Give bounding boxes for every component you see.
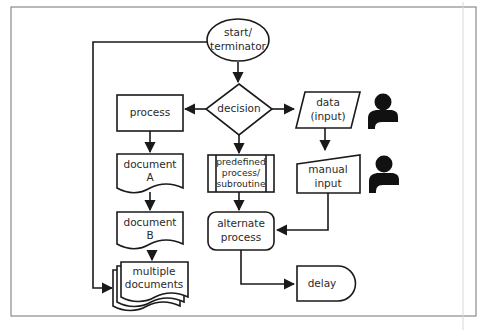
edge-manual-input-alternate bbox=[277, 193, 328, 230]
node-start-terminator: start/ terminator bbox=[207, 19, 269, 61]
node-multiple-documents: multiple documents bbox=[113, 262, 188, 311]
process-label: process bbox=[130, 106, 170, 118]
data-input-line1: data bbox=[316, 96, 340, 108]
alternate-process-line1: alternate bbox=[217, 217, 265, 229]
start-label-line2: terminator bbox=[210, 40, 266, 52]
document-b-line1: document bbox=[124, 216, 177, 228]
data-input-line2: (input) bbox=[310, 110, 345, 122]
node-document-b: document B bbox=[117, 212, 183, 249]
decision-label: decision bbox=[217, 102, 260, 114]
predefined-line2: process/ bbox=[222, 167, 261, 178]
node-alternate-process: alternate process bbox=[208, 212, 274, 250]
predefined-line3: subroutine bbox=[216, 178, 265, 189]
predefined-line1: predefined bbox=[216, 156, 266, 167]
node-process: process bbox=[117, 95, 183, 131]
edge-alternate-delay bbox=[241, 250, 294, 284]
node-delay: delay bbox=[297, 266, 356, 301]
start-label-line1: start/ bbox=[224, 26, 252, 38]
user-icon bbox=[369, 156, 399, 194]
node-decision: decision bbox=[206, 84, 272, 135]
user-icon bbox=[368, 94, 398, 130]
multiple-documents-line2: documents bbox=[125, 278, 183, 290]
delay-label: delay bbox=[308, 277, 337, 289]
manual-input-line1: manual bbox=[308, 163, 347, 175]
flowchart-canvas: start/ terminator decision process docum… bbox=[0, 0, 484, 330]
document-a-line1: document bbox=[124, 158, 177, 170]
node-document-a: document A bbox=[117, 154, 183, 193]
document-a-line2: A bbox=[146, 171, 154, 183]
manual-input-line2: input bbox=[314, 177, 341, 189]
node-manual-input: manual input bbox=[297, 155, 360, 193]
document-b-line2: B bbox=[146, 229, 153, 241]
node-data-input: data (input) bbox=[296, 92, 360, 128]
multiple-documents-line1: multiple bbox=[133, 265, 176, 277]
alternate-process-line2: process bbox=[221, 231, 261, 243]
node-predefined-process: predefined process/ subroutine bbox=[208, 155, 274, 192]
